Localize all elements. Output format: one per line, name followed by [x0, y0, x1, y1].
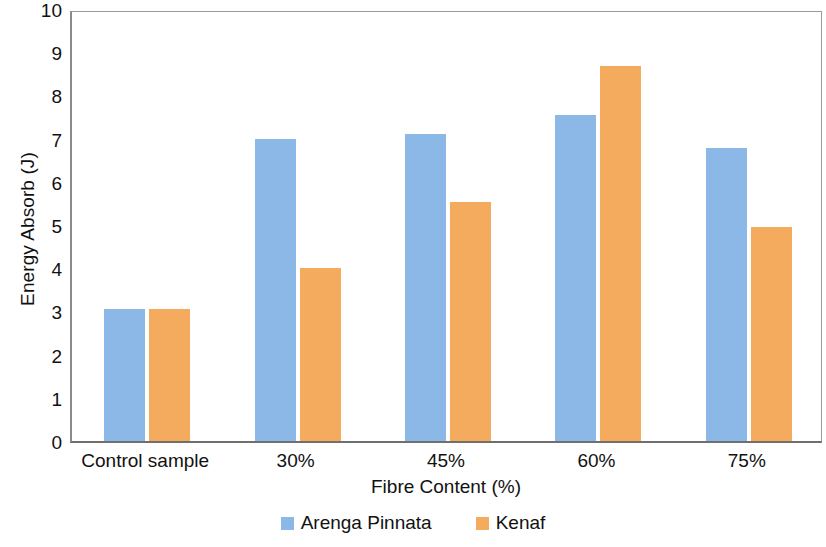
- y-axis-tick-label: 3: [26, 303, 62, 322]
- bar: [104, 309, 145, 441]
- legend-item[interactable]: Arenga Pinnata: [281, 512, 432, 534]
- y-axis-tick-label: 8: [26, 87, 62, 106]
- y-axis-tick-label: 5: [26, 217, 62, 236]
- bar: [600, 66, 641, 441]
- bar: [706, 148, 747, 441]
- x-axis-title: Fibre Content (%): [70, 476, 822, 498]
- y-axis-tick-label: 6: [26, 174, 62, 193]
- bar: [300, 268, 341, 441]
- y-axis-tick-label: 10: [26, 1, 62, 20]
- y-axis-tick-label: 2: [26, 347, 62, 366]
- legend-label: Arenga Pinnata: [301, 512, 432, 534]
- bar-chart: Energy Absorb (J) 012345678910 Control s…: [0, 0, 826, 547]
- x-axis-tick-label: 75%: [637, 450, 826, 472]
- bar: [450, 202, 491, 441]
- y-axis-tick-label: 1: [26, 390, 62, 409]
- plot-area: [70, 11, 822, 443]
- bar: [255, 139, 296, 441]
- bars-layer: [72, 12, 821, 441]
- y-axis-tick-label: 9: [26, 44, 62, 63]
- legend-label: Kenaf: [496, 512, 546, 534]
- bar: [405, 134, 446, 441]
- legend-swatch-icon: [281, 517, 294, 530]
- bar: [555, 115, 596, 441]
- chart-legend: Arenga PinnataKenaf: [0, 512, 826, 534]
- legend-item[interactable]: Kenaf: [476, 512, 546, 534]
- y-axis-tick-label: 7: [26, 131, 62, 150]
- y-axis-tick-labels: 012345678910: [26, 0, 62, 460]
- bar: [149, 309, 190, 441]
- legend-swatch-icon: [476, 517, 489, 530]
- x-axis-tick-labels: Control sample30%45%60%75%: [70, 450, 822, 476]
- y-axis-tick-label: 4: [26, 260, 62, 279]
- bar: [751, 227, 792, 441]
